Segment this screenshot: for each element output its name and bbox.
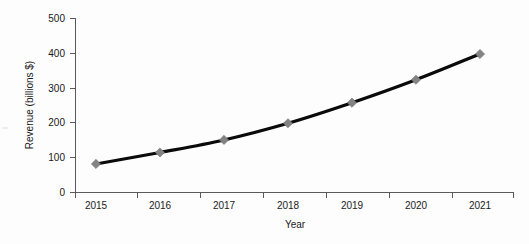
y-tick-label-300: 300 [48, 83, 65, 94]
x-tick-label-2018: 2018 [277, 200, 300, 211]
y-tick-label-0: 0 [59, 187, 65, 198]
x-tick-label-2021: 2021 [469, 200, 492, 211]
chart-canvas: 500 400 300 200 100 0 Revenue (billions … [0, 0, 529, 244]
x-tick-label-2019: 2019 [341, 200, 364, 211]
y-tick-label-400: 400 [48, 48, 65, 59]
y-tick-label-200: 200 [48, 117, 65, 128]
y-tick-label-100: 100 [48, 152, 65, 163]
revenue-line-chart: 500 400 300 200 100 0 Revenue (billions … [0, 0, 529, 244]
x-tick-label-2020: 2020 [405, 200, 428, 211]
y-axis-title: Revenue (billions $) [24, 61, 35, 149]
edge-artifact-mark [2, 127, 8, 129]
x-axis-title: Year [285, 219, 306, 230]
chart-background [0, 0, 529, 244]
x-tick-label-2017: 2017 [213, 200, 236, 211]
x-tick-label-2015: 2015 [85, 200, 108, 211]
y-tick-label-500: 500 [48, 13, 65, 24]
x-tick-label-2016: 2016 [149, 200, 172, 211]
